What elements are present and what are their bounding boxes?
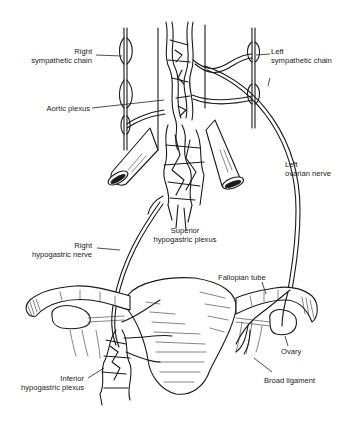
label-left-ovarian-nerve: Left ovarian nerve — [285, 160, 331, 178]
right-common-iliac-artery — [106, 128, 158, 188]
aortic-plexus — [92, 22, 252, 150]
left-common-iliac-artery — [206, 120, 245, 191]
label-superior-hypogastric-plexus: Superior hypogastric plexus — [140, 226, 230, 244]
left-sympathetic-chain — [248, 28, 260, 128]
label-aortic-plexus: Aortic plexus — [20, 104, 90, 113]
label-right-hypogastric-nerve: Right hypogastric nerve — [10, 241, 92, 259]
pelvic-nerve-diagram: Right sympathetic chain Left sympathetic… — [0, 0, 349, 421]
right-sympathetic-chain-leader — [96, 55, 122, 56]
right-sympathetic-chain — [120, 28, 133, 150]
label-left-sympathetic-chain: Left sympathetic chain — [271, 47, 332, 65]
right-ovary — [52, 305, 124, 328]
left-sympathetic-chain-leader — [256, 54, 270, 55]
label-fallopian-tube: Fallopian tube — [218, 273, 266, 282]
label-inferior-hypogastric-plexus: Inferior hypogastric plexus — [4, 374, 84, 392]
label-right-sympathetic-chain: Right sympathetic chain — [20, 47, 92, 65]
left-ovary — [236, 309, 297, 346]
label-ovary: Ovary — [281, 347, 301, 356]
uterus — [128, 278, 236, 395]
label-broad-ligament: Broad ligament — [264, 376, 315, 385]
